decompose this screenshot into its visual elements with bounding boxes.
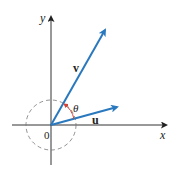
angle-theta-label: θ [73, 102, 79, 114]
origin-label: 0 [44, 129, 50, 141]
vector-v-label: v [73, 61, 79, 75]
y-axis-label: y [39, 11, 46, 25]
vector-u-label: u [92, 113, 99, 127]
x-axis-label: x [159, 128, 166, 142]
vector-angle-diagram: y x 0 v u θ [0, 0, 179, 176]
vector-u-arrow [51, 107, 117, 125]
